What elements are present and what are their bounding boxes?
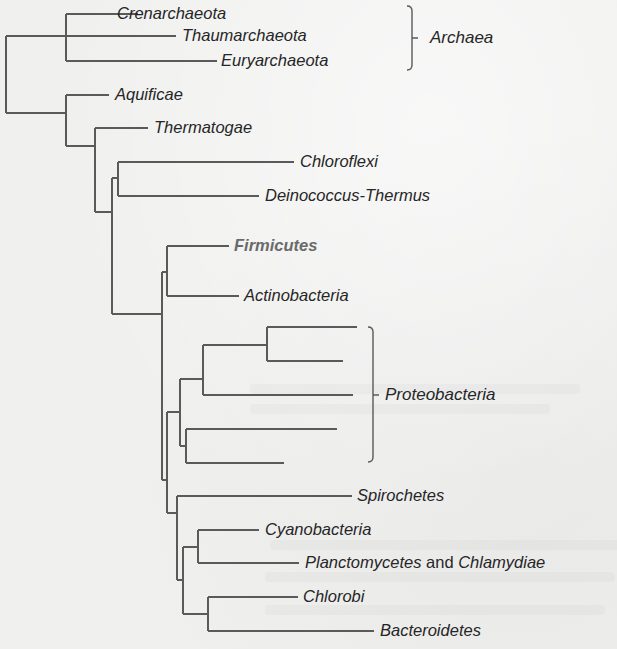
leaf-label-part: Planctomycetes — [305, 553, 421, 571]
leaf-label-chloroflexi: Chloroflexi — [300, 153, 378, 170]
group-label-archaea: Archaea — [430, 29, 493, 46]
leaf-label-deinococcus-thermus: Deinococcus-Thermus — [265, 187, 430, 204]
group-label-proteobacteria: Proteobacteria — [385, 386, 496, 403]
leaf-label-crenarchaeota: Crenarchaeota — [117, 5, 226, 22]
leaf-label-actinobacteria: Actinobacteria — [244, 287, 349, 304]
leaf-label-part: and — [421, 553, 458, 571]
group-bracket-proteobacteria — [368, 327, 379, 462]
leaf-label-thermatogae: Thermatogae — [154, 119, 252, 136]
leaf-label-bacteroidetes: Bacteroidetes — [380, 622, 481, 639]
phylogenetic-tree-figure: Crenarchaeota Thaumarchaeota Euryarchaeo… — [0, 0, 617, 649]
tree-branches — [0, 0, 617, 649]
leaf-label-planctomycetes-chlamydiae: Planctomycetes and Chlamydiae — [305, 554, 545, 571]
leaf-label-aquificae: Aquificae — [115, 86, 183, 103]
leaf-label-euryarchaeota: Euryarchaeota — [221, 52, 328, 69]
leaf-label-part: Chlamydiae — [458, 553, 545, 571]
leaf-label-spirochetes: Spirochetes — [357, 487, 444, 504]
leaf-label-chlorobi: Chlorobi — [303, 588, 364, 605]
leaf-label-thaumarchaeota: Thaumarchaeota — [182, 27, 307, 44]
group-bracket-archaea — [407, 6, 418, 70]
leaf-label-firmicutes: Firmicutes — [234, 237, 317, 254]
leaf-label-cyanobacteria: Cyanobacteria — [265, 521, 371, 538]
